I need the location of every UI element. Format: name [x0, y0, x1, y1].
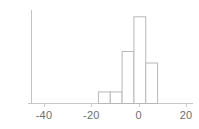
histogram-bar-group — [98, 17, 157, 104]
x-axis-tick-label-0: -40 — [36, 109, 53, 121]
histogram-bar — [134, 17, 146, 104]
x-axis-tick-label-1: -20 — [83, 109, 100, 121]
histogram-bar — [146, 63, 158, 103]
x-axis-tick-label-3: 20 — [180, 109, 193, 121]
x-axis-tick-marks — [45, 104, 187, 108]
histogram-figure: -40-20020 — [0, 0, 199, 129]
histogram-bar — [122, 51, 134, 103]
x-axis-tick-label-2: 0 — [135, 109, 141, 121]
histogram-bar — [98, 92, 110, 104]
histogram-bar — [110, 92, 122, 104]
